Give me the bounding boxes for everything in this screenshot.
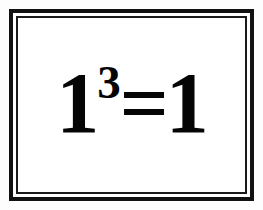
frame-outer-rule: 13=1 bbox=[9, 9, 254, 201]
equation-card: 13=1 bbox=[0, 0, 263, 210]
equation-canvas: 13=1 bbox=[18, 18, 245, 192]
equation-operator: = bbox=[120, 55, 166, 151]
equation-expression: 13=1 bbox=[56, 60, 207, 146]
frame-inner-rule: 13=1 bbox=[16, 16, 247, 194]
equation-result: 1 bbox=[166, 55, 207, 151]
equation-base: 1 bbox=[56, 55, 97, 151]
frame-gutter: 13=1 bbox=[13, 13, 250, 197]
equation-exponent: 3 bbox=[97, 56, 120, 108]
